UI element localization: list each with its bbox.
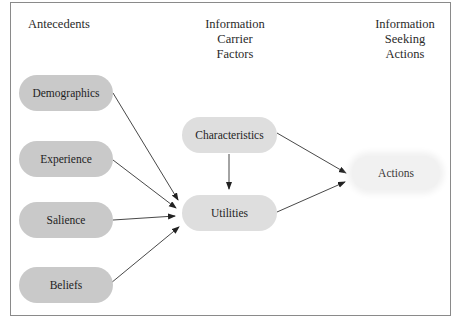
node-label: Salience <box>47 214 86 226</box>
node-label: Beliefs <box>50 279 83 291</box>
node-demographics: Demographics <box>19 75 113 111</box>
edge-utilities-actions <box>277 182 345 212</box>
node-label: Characteristics <box>195 129 263 141</box>
node-experience: Experience <box>19 141 113 177</box>
node-characteristics: Characteristics <box>182 117 277 153</box>
node-label: Demographics <box>32 87 99 99</box>
node-salience: Salience <box>19 202 113 238</box>
edge-characteristics-actions <box>277 133 346 173</box>
edge-salience-utilities <box>113 216 175 220</box>
node-label: Utilities <box>211 207 248 219</box>
edge-beliefs-utilities <box>111 227 179 283</box>
edge-demographics-utilities <box>113 93 178 200</box>
node-utilities: Utilities <box>182 195 277 231</box>
node-beliefs: Beliefs <box>19 267 113 303</box>
edge-experience-utilities <box>113 160 176 208</box>
node-actions: Actions <box>352 156 440 190</box>
node-label: Actions <box>378 167 414 179</box>
node-label: Experience <box>40 153 92 165</box>
